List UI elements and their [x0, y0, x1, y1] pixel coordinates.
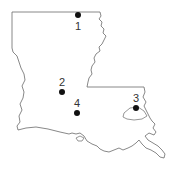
- point-4-label: 4: [74, 97, 80, 109]
- state-outline: [12, 12, 165, 158]
- point-2-marker: [59, 89, 65, 95]
- point-4-marker: [74, 110, 80, 116]
- point-3-marker: [133, 105, 139, 111]
- point-1-marker: [75, 12, 81, 18]
- point-3-label: 3: [133, 92, 139, 104]
- point-1-label: 1: [75, 20, 81, 32]
- louisiana-map: 1 2 3 4: [0, 0, 175, 174]
- coastal-bay: [76, 136, 84, 141]
- point-2-label: 2: [59, 76, 65, 88]
